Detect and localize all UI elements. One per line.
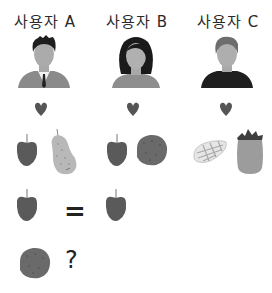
- heart-icon: [218, 101, 234, 117]
- user-c-label: 사용자 C: [197, 10, 259, 31]
- woman-avatar-icon: [108, 34, 164, 88]
- apple-icon: [14, 132, 40, 168]
- caption-cutoff: [50, 287, 220, 293]
- melon-icon: [16, 246, 54, 280]
- pear-icon: [48, 128, 80, 176]
- man-suit-avatar-icon: [16, 34, 72, 88]
- heart-icon: [125, 101, 141, 117]
- apple-icon: [104, 132, 130, 168]
- pineapple-icon: [234, 126, 266, 176]
- melon-icon: [134, 133, 170, 167]
- apple-icon: [14, 186, 40, 224]
- man-casual-avatar-icon: [199, 34, 255, 88]
- apple-icon: [103, 186, 129, 224]
- equals-sign: =: [64, 198, 86, 224]
- user-a-label: 사용자 A: [14, 10, 76, 31]
- question-mark: ?: [65, 248, 78, 272]
- heart-icon: [33, 101, 49, 117]
- mango-icon: [191, 137, 229, 165]
- user-b-label: 사용자 B: [106, 10, 168, 31]
